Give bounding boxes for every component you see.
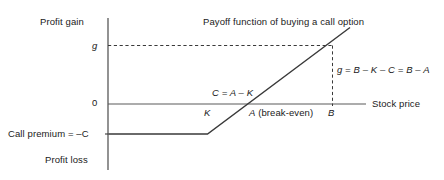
x-tick-breakeven-note: (break-even) [255, 107, 313, 118]
figure-canvas: Payoff function of buying a call option … [0, 0, 444, 180]
y-tick-gain: g [92, 41, 97, 51]
figure-title: Payoff function of buying a call option [203, 17, 364, 27]
payoff-function-line [109, 28, 350, 135]
x-tick-breakeven: A (break-even) [249, 108, 313, 118]
annotation-premium-relation: C = A – K [212, 88, 253, 98]
y-tick-call-premium: Call premium = –C [8, 129, 89, 139]
annotation-gain-relation: g = B – K – C = B – A [337, 65, 430, 75]
x-tick-strike: K [204, 108, 210, 118]
x-tick-point-b: B [328, 108, 334, 118]
y-axis-top-label: Profit gain [40, 17, 84, 27]
y-axis-bottom-label: Profit loss [45, 155, 88, 165]
y-tick-zero: 0 [92, 98, 97, 108]
x-axis-label: Stock price [372, 99, 420, 109]
